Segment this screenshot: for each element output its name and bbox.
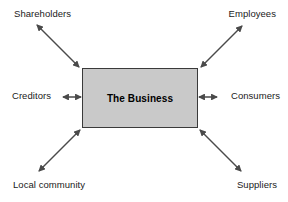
stakeholder-label-suppliers: Suppliers [237,180,277,190]
arrow-local-community [39,130,80,171]
central-business-label: The Business [107,93,173,104]
arrow-employees [201,26,242,67]
arrow-shareholders [37,25,79,67]
central-business-box: The Business [82,68,198,128]
stakeholder-diagram: Shareholders Employees Creditors Consume… [0,0,288,202]
stakeholder-label-creditors: Creditors [12,91,51,101]
arrow-suppliers [200,130,241,171]
stakeholder-label-consumers: Consumers [231,91,280,101]
stakeholder-label-employees: Employees [229,9,276,19]
stakeholder-label-local-community: Local community [13,180,85,190]
stakeholder-label-shareholders: Shareholders [14,9,71,19]
